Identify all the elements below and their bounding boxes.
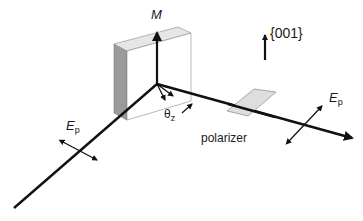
crystal-axis-label: {001}: [270, 25, 303, 41]
rotation-angle-symbol: θ: [164, 107, 171, 121]
polarizer-label: polarizer: [201, 131, 247, 145]
sample-crystal: [114, 27, 191, 120]
transmitted-field-label: Ep: [329, 90, 343, 107]
incident-field-symbol: E: [66, 118, 75, 133]
magneto-optic-setup-diagram: [0, 0, 363, 221]
polarizer-plate: [227, 89, 276, 116]
rotation-angle-subscript: z: [171, 113, 176, 123]
transmitted-field-subscript: p: [338, 97, 343, 107]
incident-field-label: Ep: [66, 118, 80, 135]
rotation-angle-label: θz: [164, 107, 175, 123]
transmitted-polarization-arrow: [289, 106, 322, 141]
magnetization-label: M: [151, 7, 162, 22]
transmitted-field-symbol: E: [329, 90, 338, 105]
incident-beam: [14, 84, 157, 208]
theta-z-arrow: [182, 104, 192, 113]
sample-side-face: [114, 44, 127, 120]
incident-polarization-arrow: [63, 142, 97, 160]
incident-field-subscript: p: [75, 125, 80, 135]
